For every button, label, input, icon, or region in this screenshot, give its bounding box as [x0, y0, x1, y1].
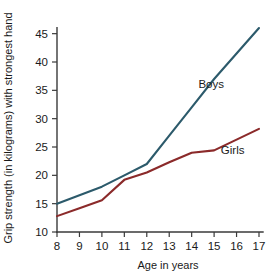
chart-container: 1015202530354045 891011121314151617 Boys…	[0, 0, 279, 274]
x-tick-label: 12	[140, 240, 153, 252]
x-tick-label: 8	[54, 240, 60, 252]
grip-strength-line-chart: 1015202530354045 891011121314151617 Boys…	[0, 0, 279, 274]
x-tick-label: 17	[253, 240, 266, 252]
x-tick-label: 14	[185, 240, 198, 252]
x-axis-title: Age in years	[137, 259, 199, 271]
y-tick-label: 30	[35, 113, 48, 125]
y-tick-label: 40	[35, 56, 48, 68]
x-tick-label: 10	[95, 240, 108, 252]
y-tick-label: 10	[35, 226, 48, 238]
x-tick-label: 15	[208, 240, 221, 252]
x-tick-label: 16	[230, 240, 243, 252]
x-tick-label: 11	[118, 240, 130, 252]
y-axis-title: Grip strength (in kilograms) with strong…	[2, 12, 14, 243]
x-tick-label: 9	[76, 240, 82, 252]
y-tick-label: 15	[35, 198, 48, 210]
y-tick-label: 20	[35, 169, 48, 181]
y-tick-label: 25	[35, 141, 48, 153]
series-label-boys: Boys	[198, 78, 224, 90]
y-tick-label: 35	[35, 84, 48, 96]
series-label-girls: Girls	[221, 144, 245, 156]
x-tick-label: 13	[163, 240, 176, 252]
y-tick-label: 45	[35, 28, 48, 40]
